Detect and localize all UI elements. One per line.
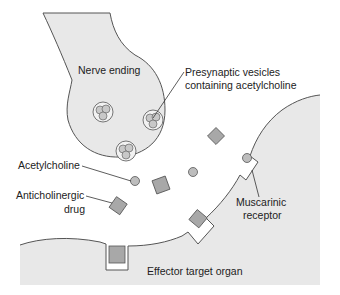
vesicle-3 (116, 141, 136, 161)
acetylcholine-label: Acetylcholine (18, 159, 80, 171)
vesicle-2 (143, 110, 163, 130)
anticholinergic-drug-2 (152, 176, 170, 194)
muscarinic-label-line2: receptor (243, 209, 282, 221)
acetylcholine-molecule-2 (189, 168, 198, 177)
anticholinergic-drug-bound-2 (109, 246, 125, 263)
vesicle-1 (93, 102, 113, 122)
nerve-ending-shape (43, 13, 165, 157)
acetylcholine-leader (82, 166, 131, 181)
acetylcholine-molecule-1 (131, 177, 140, 186)
effector-organ-label: Effector target organ (147, 265, 243, 277)
vesicles-label-line2: containing acetylcholine (185, 79, 297, 91)
anticholinergic-drug-1 (208, 128, 225, 145)
anticholinergic-drug-bound-1 (189, 210, 207, 228)
cholinergic-synapse-diagram: Nerve ending Presynaptic vesicles contai… (0, 0, 340, 295)
acetylcholine-bound-receptor (243, 154, 252, 163)
nerve-ending-label: Nerve ending (78, 64, 141, 76)
anticholinergic-label-line2: drug (64, 203, 85, 215)
muscarinic-label-line1: Muscarinic (236, 196, 286, 208)
anticholinergic-leader (86, 196, 112, 203)
vesicles-label-line1: Presynaptic vesicles (185, 66, 280, 78)
anticholinergic-label-line1: Anticholinergic (16, 189, 84, 201)
anticholinergic-drug-3 (109, 197, 127, 215)
